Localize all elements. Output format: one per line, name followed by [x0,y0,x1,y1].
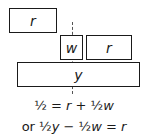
label-r-top: r [30,14,36,28]
label-w: w [66,41,77,55]
box-w: w [60,35,83,60]
box-r-top: r [9,8,57,33]
eq2-w: w [91,119,102,134]
eq2-r: r [121,119,126,134]
eq2-prefix: or ½ [22,119,52,134]
box-r-mid: r [86,35,132,60]
label-y: y [74,68,82,82]
eq2-equals: = [102,119,121,134]
eq2-minus-half: − ½ [59,119,91,134]
eq1-w: w [103,98,114,113]
label-r-mid: r [106,41,112,55]
equation-2: or ½y − ½w = r [0,119,148,134]
eq1-equals: = [47,98,66,113]
box-y: y [17,62,140,87]
eq1-half: ½ [34,98,47,113]
equation-1: ½ = r + ½w [0,98,148,113]
eq1-plus-half: + ½ [71,98,103,113]
